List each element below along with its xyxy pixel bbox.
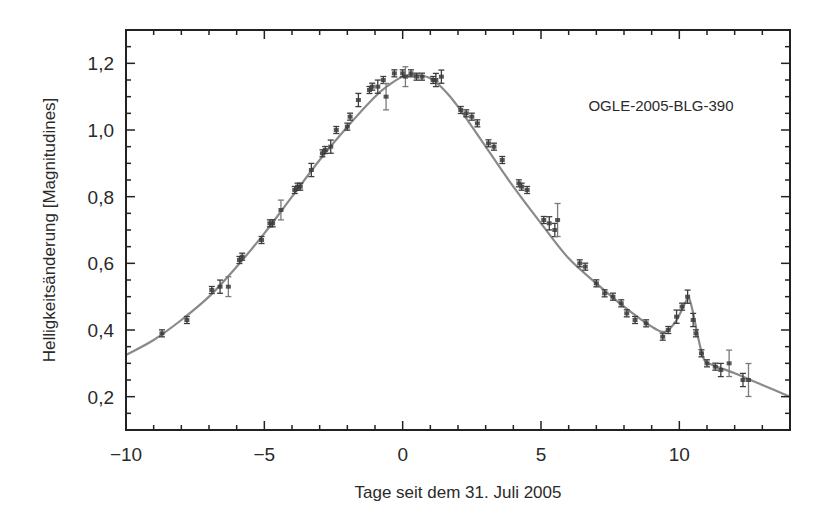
x-tick-label: 10 [669, 444, 690, 465]
data-point [380, 77, 386, 84]
x-axis-ticks [126, 30, 790, 430]
data-point [546, 217, 552, 230]
data-point [660, 333, 666, 340]
y-tick-label: 0,4 [88, 320, 115, 341]
data-point [259, 237, 265, 244]
data-point [552, 223, 558, 236]
model-fit-curve [126, 75, 790, 397]
y-tick-label: 1,0 [88, 120, 114, 141]
data-point [602, 290, 608, 297]
x-tick-label: 0 [397, 444, 408, 465]
data-point [499, 157, 505, 164]
y-tick-label: 0,6 [88, 253, 114, 274]
plot-frame [126, 30, 790, 430]
y-axis-ticks [126, 30, 790, 430]
data-point [746, 364, 752, 397]
x-axis-label: Tage seit dem 31. Juli 2005 [355, 483, 562, 502]
y-axis-tick-labels: 0,20,40,60,81,01,2 [88, 53, 115, 407]
data-point [347, 113, 353, 120]
x-tick-label: −5 [253, 444, 275, 465]
model-fit-line [126, 75, 790, 397]
data-point [355, 93, 361, 106]
data-point [469, 113, 475, 120]
x-axis-tick-labels: −10−50510 [110, 444, 690, 465]
y-tick-label: 1,2 [88, 53, 114, 74]
y-tick-label: 0,8 [88, 187, 114, 208]
data-point [333, 127, 339, 134]
light-curve-chart: −10−50510 0,20,40,60,81,01,2 OGLE-2005-B… [0, 0, 816, 526]
x-tick-label: 5 [536, 444, 547, 465]
x-tick-label: −10 [110, 444, 142, 465]
y-tick-label: 0,2 [88, 387, 114, 408]
data-point [582, 263, 588, 270]
y-axis-label: Helligkeitsänderung [Magnitudines] [40, 98, 59, 363]
observation-points [159, 67, 752, 397]
data-point [491, 143, 497, 150]
event-annotation: OGLE-2005-BLG-390 [588, 97, 733, 114]
data-point [474, 120, 480, 127]
data-point [391, 70, 397, 77]
data-point [718, 363, 724, 376]
data-point [278, 200, 284, 220]
data-point [524, 187, 530, 194]
data-point [438, 70, 444, 83]
